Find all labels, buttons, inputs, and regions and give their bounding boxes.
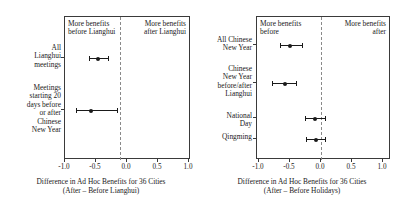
x-tick [95, 159, 96, 162]
annotation-more-benefits-before-right: More benefits before [260, 20, 315, 37]
ci-cap-high [108, 56, 109, 61]
x-tick [188, 159, 189, 162]
point-estimate-dot [314, 138, 318, 142]
x-tick-label: 0.5 [145, 163, 169, 171]
row-label-all-chinese-new-year: All Chinese New Year [201, 36, 252, 53]
row-tick [61, 109, 64, 110]
ci-cap-low [272, 81, 273, 86]
x-axis-title-holidays: Difference in Ad Hoc Benefits for 36 Cit… [201, 177, 403, 195]
row-label-national-day: National Day [201, 112, 252, 129]
plot-area-holidays: More benefits before More benefits after [256, 16, 390, 159]
ci-cap-high [117, 108, 118, 113]
x-tick [351, 159, 352, 162]
ci-cap-low [76, 108, 77, 113]
x-tick [126, 159, 127, 162]
panel-holidays: More benefits before More benefits after [201, 0, 403, 213]
ci-cap-high [302, 43, 303, 48]
row-tick [253, 117, 256, 118]
row-label-meetings-near-chinese-new-year: Meetings starting 20 days before or afte… [6, 84, 61, 134]
annotation-more-benefits-after-right: More benefits after [326, 20, 386, 37]
panel-lianghui: More benefits before Lianghui More benef… [0, 0, 202, 213]
x-tick-label: -1.0 [52, 163, 76, 171]
x-tick-label: 1.0 [370, 163, 394, 171]
point-estimate-dot [288, 44, 292, 48]
x-tick-label: 0.5 [339, 163, 363, 171]
x-tick-label: -1.0 [246, 163, 270, 171]
x-tick [157, 159, 158, 162]
point-estimate-dot [283, 82, 287, 86]
ci-cap-low [89, 56, 90, 61]
x-tick [382, 159, 383, 162]
row-tick [253, 138, 256, 139]
point-estimate-dot [96, 57, 100, 61]
x-tick [289, 159, 290, 162]
row-label-qingming: Qingming [201, 133, 252, 141]
x-tick-label: 0.0 [114, 163, 138, 171]
row-tick [61, 57, 64, 58]
ci-cap-low [305, 116, 306, 121]
row-label-all-lianghui-meetings: All Lianghui meetings [6, 44, 61, 69]
x-tick [64, 159, 65, 162]
ci-cap-high [325, 137, 326, 142]
annotation-more-benefits-before-left: More benefits before Lianghui [68, 20, 120, 37]
annotation-more-benefits-after-left: More benefits after Lianghui [124, 20, 186, 37]
forest-plot-figure: More benefits before Lianghui More benef… [0, 0, 403, 213]
x-tick-label: -0.5 [83, 163, 107, 171]
ci-cap-low [280, 43, 281, 48]
x-tick-label: -0.5 [277, 163, 301, 171]
x-axis-title-lianghui: Difference in Ad Hoc Benefits for 36 Cit… [0, 177, 202, 195]
x-tick-label: 0.0 [308, 163, 332, 171]
plot-area-lianghui: More benefits before Lianghui More benef… [64, 16, 190, 159]
x-tick [258, 159, 259, 162]
row-label-chinese-new-year-before-after-lianghui: Chinese New Year before/after Lianghui [201, 65, 252, 99]
x-tick [320, 159, 321, 162]
row-tick [253, 82, 256, 83]
row-tick [253, 44, 256, 45]
point-estimate-dot [313, 117, 317, 121]
confidence-interval-bar [76, 110, 117, 111]
ci-cap-high [296, 81, 297, 86]
point-estimate-dot [89, 109, 93, 113]
x-tick-label: 1.0 [176, 163, 200, 171]
zero-reference-line-left [120, 17, 121, 160]
ci-cap-high [325, 116, 326, 121]
ci-cap-low [306, 137, 307, 142]
